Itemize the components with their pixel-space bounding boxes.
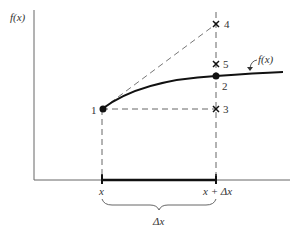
interval-label: Δx (152, 215, 164, 227)
x-tick-label-x: x (98, 185, 104, 197)
curve-label-arrowhead (247, 67, 253, 71)
interval-brace (102, 199, 216, 210)
curve-label: f(x) (258, 53, 274, 66)
derivative-approximation-diagram: 1 2 3 4 5 f(x) f(x) x x + Δx Δx (0, 0, 303, 234)
point-4-label: 4 (224, 18, 230, 30)
point-3-label: 3 (223, 103, 229, 115)
x-tick-label-x-plus-dx: x + Δx (202, 185, 232, 197)
point-1-label: 1 (91, 104, 97, 116)
point-2-dot (213, 73, 220, 80)
y-axis-label: f(x) (10, 11, 26, 24)
point-5-label: 5 (223, 58, 229, 70)
function-curve (102, 72, 283, 109)
dashed-secant-to-4 (102, 24, 216, 109)
point-1-dot (100, 106, 107, 113)
curve-label-pointer (250, 60, 257, 68)
point-2-label: 2 (222, 80, 228, 92)
